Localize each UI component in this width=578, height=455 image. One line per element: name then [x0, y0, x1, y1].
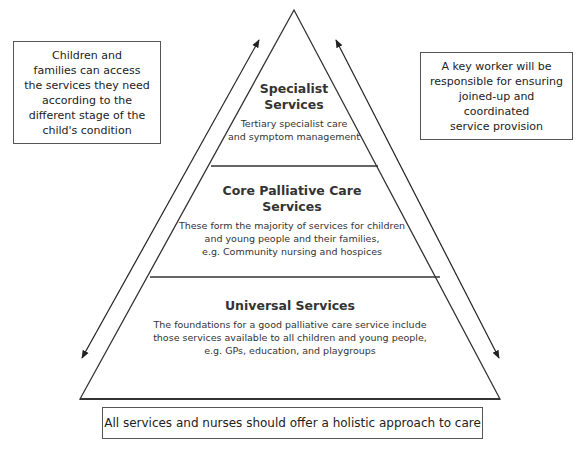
- tier-specialist-services: Specialist Services Tertiary specialist …: [214, 81, 374, 143]
- left-note-line: according to the: [24, 93, 150, 108]
- tier-title-line: Specialist: [214, 81, 374, 97]
- left-note-line: families can access: [24, 63, 150, 78]
- tier-title: Universal Services: [120, 298, 460, 314]
- tier-title: Core Palliative Care Services: [172, 183, 412, 215]
- right-note-line: joined-up and coordinated: [427, 89, 566, 119]
- left-note-line: different stage of the: [24, 108, 150, 123]
- tier-description: Tertiary specialist care and symptom man…: [214, 117, 374, 143]
- left-note-line: Children and: [24, 48, 150, 63]
- tier-description: The foundations for a good palliative ca…: [120, 318, 460, 357]
- tier-title-line: Universal Services: [120, 298, 460, 314]
- tier-desc-line: and young people and their families,: [172, 232, 412, 245]
- tier-title-line: Services: [172, 199, 412, 215]
- tier-desc-line: These form the majority of services for …: [172, 219, 412, 232]
- tier-title: Specialist Services: [214, 81, 374, 113]
- left-note-line: child's condition: [24, 123, 150, 138]
- tier-description: These form the majority of services for …: [172, 219, 412, 258]
- tier-title-line: Services: [214, 97, 374, 113]
- right-note-line: service provision: [427, 119, 566, 134]
- tier-desc-line: e.g. GPs, education, and playgroups: [120, 344, 460, 357]
- right-note-line: responsible for ensuring: [427, 74, 566, 89]
- tier-desc-line: e.g. Community nursing and hospices: [172, 245, 412, 258]
- bottom-note-box: All services and nurses should offer a h…: [102, 407, 483, 439]
- bottom-note-text: All services and nurses should offer a h…: [104, 416, 481, 431]
- left-note-box: Children and families can access the ser…: [13, 41, 161, 144]
- left-note-line: the services they need: [24, 78, 150, 93]
- tier-core-palliative-care-services: Core Palliative Care Services These form…: [172, 183, 412, 258]
- right-note-box: A key worker will be responsible for ens…: [420, 52, 573, 140]
- tier-desc-line: The foundations for a good palliative ca…: [120, 318, 460, 331]
- tier-desc-line: and symptom management: [214, 130, 374, 143]
- tier-desc-line: Tertiary specialist care: [214, 117, 374, 130]
- tier-universal-services: Universal Services The foundations for a…: [120, 298, 460, 357]
- tier-desc-line: those services available to all children…: [120, 331, 460, 344]
- tier-title-line: Core Palliative Care: [172, 183, 412, 199]
- right-note-line: A key worker will be: [427, 59, 566, 74]
